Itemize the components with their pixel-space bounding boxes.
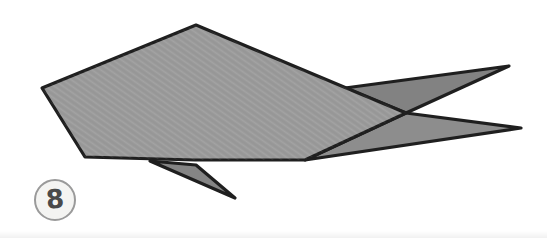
fish-bottom-fin: [150, 161, 235, 198]
origami-fish-illustration: [0, 0, 547, 238]
step-number-badge: 8: [34, 179, 76, 221]
origami-step-diagram: 8: [0, 0, 547, 238]
step-number: 8: [45, 185, 65, 212]
